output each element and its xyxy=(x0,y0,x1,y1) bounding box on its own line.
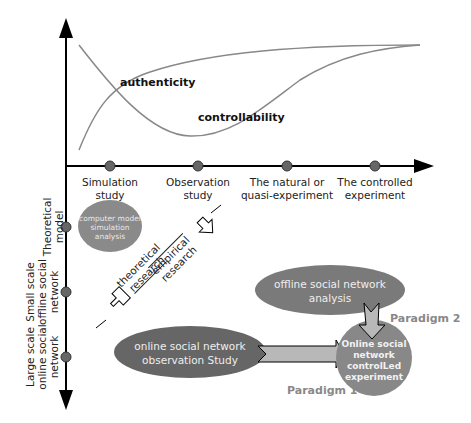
divider-dash-1 xyxy=(96,320,106,328)
theoretical-arrow-icon xyxy=(106,287,130,311)
y-label-small-1: Small scale xyxy=(24,262,36,322)
y-label-large-1: Large scale xyxy=(24,327,36,387)
divider-dash-2 xyxy=(211,205,221,213)
paradigm1-arrow-icon xyxy=(258,340,345,368)
x-label-simulation-1: Simulation xyxy=(82,176,138,188)
axis-arrow-down-icon xyxy=(59,390,73,410)
controlled-node-line4: experiment xyxy=(345,372,404,382)
offline-node-line2: analysis xyxy=(309,292,352,304)
simulation-node-line3: analysis xyxy=(95,232,125,241)
paradigm1-label: Paradigm 1 xyxy=(287,384,358,397)
controlled-node-line2: network xyxy=(353,350,396,360)
offline-node-line1: offline social network xyxy=(274,278,387,290)
simulation-node-line1: computer model xyxy=(79,214,141,223)
y-label-small-2: offline social xyxy=(36,259,48,325)
authenticity-label: authenticity xyxy=(120,76,195,89)
x-point-observation xyxy=(193,161,203,171)
authenticity-curve xyxy=(79,45,420,150)
x-label-natural-1: The natural or xyxy=(249,176,325,188)
x-label-observation-1: Observation xyxy=(166,176,230,188)
x-label-natural-2: quasi-experiment xyxy=(241,189,333,201)
online-node-line2: observation Study xyxy=(142,354,238,366)
y-label-large-2: online social xyxy=(36,324,48,389)
x-point-natural xyxy=(282,161,292,171)
y-point-small-offline xyxy=(61,287,71,297)
controlled-node-line3: controlLed xyxy=(347,361,401,371)
x-point-simulation xyxy=(105,161,115,171)
x-label-observation-2: study xyxy=(183,189,212,201)
axis-arrow-right-icon xyxy=(414,159,434,173)
y-label-small-3: network xyxy=(48,270,60,314)
simulation-node-line2: simulation xyxy=(90,223,129,232)
paradigm2-label: Paradigm 2 xyxy=(390,312,461,325)
controllability-label: controllability xyxy=(198,111,285,124)
y-label-large-3: network xyxy=(48,335,60,379)
axis-arrow-up-icon xyxy=(59,18,73,38)
x-point-controlled xyxy=(370,161,380,171)
offline-analysis-node xyxy=(255,265,405,315)
x-label-controlled-1: The controlled xyxy=(336,176,412,188)
x-label-controlled-2: experiment xyxy=(345,189,405,201)
empirical-arrow-icon xyxy=(194,214,219,239)
y-point-large-online xyxy=(61,352,71,362)
x-label-simulation-2: study xyxy=(95,189,124,201)
y-label-theoretical-1: Theoretical xyxy=(41,198,53,258)
controlled-node-line1: Online social xyxy=(342,339,407,349)
y-label-theoretical-2: model xyxy=(53,211,65,244)
online-node-line1: online social network xyxy=(134,340,246,352)
research-paradigm-diagram: authenticity controllability Simulation … xyxy=(0,0,471,423)
online-observation-node xyxy=(114,326,266,378)
